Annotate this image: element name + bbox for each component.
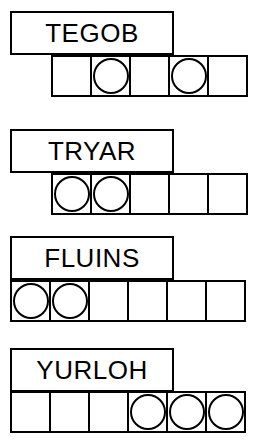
circle-token-icon [54,176,90,212]
token-cell[interactable] [207,55,248,97]
token-cell[interactable] [51,173,92,215]
token-cell[interactable] [88,280,129,322]
circle-token-icon [208,394,244,430]
token-cell[interactable] [166,391,207,433]
token-cell[interactable] [127,280,168,322]
word-label-text: YURLOH [36,357,147,383]
circle-token-icon [52,283,88,319]
word-label-box: YURLOH [10,348,174,392]
token-cell[interactable] [90,55,131,97]
token-cell[interactable] [51,55,92,97]
word-label-box: TRYAR [10,129,174,173]
token-cell[interactable] [129,173,170,215]
token-cell[interactable] [10,391,51,433]
circle-token-icon [169,394,205,430]
word-label-text: FLUINS [44,245,139,271]
token-cell-strip [10,280,246,322]
word-label-text: TRYAR [48,138,136,164]
token-cell-strip [51,173,248,215]
token-cell[interactable] [88,391,129,433]
circle-token-icon [171,58,207,94]
token-cell[interactable] [49,391,90,433]
token-cell[interactable] [168,55,209,97]
circle-token-icon [93,58,129,94]
token-cell[interactable] [127,391,168,433]
token-cell[interactable] [90,173,131,215]
token-cell[interactable] [168,173,209,215]
circle-token-icon [130,394,166,430]
token-cell[interactable] [129,55,170,97]
token-cell-strip [10,391,246,433]
token-cell[interactable] [10,280,51,322]
circle-token-icon [13,283,49,319]
word-label-box: TEGOB [10,11,174,55]
word-label-text: TEGOB [45,20,139,46]
token-cell[interactable] [49,280,90,322]
token-cell[interactable] [205,280,246,322]
token-cell[interactable] [205,391,246,433]
stimulus-canvas: TEGOB TRYAR FLUINS [0,0,269,445]
token-cell[interactable] [166,280,207,322]
token-cell[interactable] [207,173,248,215]
circle-token-icon [93,176,129,212]
word-label-box: FLUINS [10,236,174,280]
token-cell-strip [51,55,248,97]
